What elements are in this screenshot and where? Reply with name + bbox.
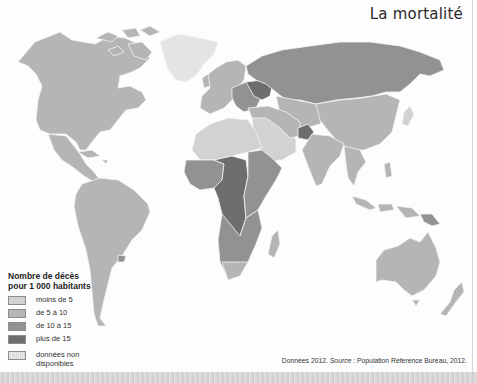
legend-swatch: [8, 296, 26, 305]
region-philippines: [384, 162, 392, 178]
legend-item-10-to-15: de 10 à 15: [8, 321, 128, 334]
legend-item-5-to-10: de 5 à 10: [8, 308, 128, 321]
source-label: Source: [330, 357, 352, 364]
legend-label-line1: données non: [36, 350, 79, 359]
region-australia: [376, 232, 440, 296]
legend-label: données non disponibles: [36, 350, 79, 368]
source-note: Données 2012. Source : Population Refere…: [282, 357, 467, 364]
legend-title-line2: pour 1 000 habitants: [8, 282, 128, 292]
region-north-america: [18, 32, 150, 150]
source-prefix: Données 2012.: [282, 357, 328, 364]
region-southeast-asia: [344, 146, 366, 186]
legend-swatch-hatched: [8, 351, 26, 360]
source-text: : Population Reference Bureau, 2012.: [353, 357, 467, 364]
legend-item-more-than-15: plus de 15: [8, 334, 128, 347]
region-indonesia: [352, 196, 420, 218]
region-tasmania: [412, 300, 420, 306]
page-edge: [0, 372, 477, 383]
legend-label: plus de 15: [36, 334, 71, 343]
region-india: [302, 134, 344, 186]
legend-item-no-data: données non disponibles: [8, 350, 128, 372]
region-new-zealand: [440, 282, 464, 316]
region-uruguay: [118, 255, 126, 262]
region-papua: [420, 214, 440, 226]
map-legend: Nombre de décès pour 1 000 habitants moi…: [8, 272, 128, 372]
region-japan: [402, 106, 414, 126]
legend-item-less-than-5: moins de 5: [8, 295, 128, 308]
legend-swatch: [8, 322, 26, 331]
legend-swatch: [8, 335, 26, 344]
legend-label-line2: disponibles: [36, 359, 79, 368]
legend-title: Nombre de décès pour 1 000 habitants: [8, 272, 128, 291]
legend-label: moins de 5: [36, 295, 73, 304]
region-south-africa: [222, 262, 248, 280]
region-madagascar: [268, 230, 280, 258]
legend-swatch: [8, 309, 26, 318]
legend-label: de 10 à 15: [36, 321, 71, 330]
legend-label: de 5 à 10: [36, 308, 67, 317]
region-russia: [246, 42, 444, 104]
